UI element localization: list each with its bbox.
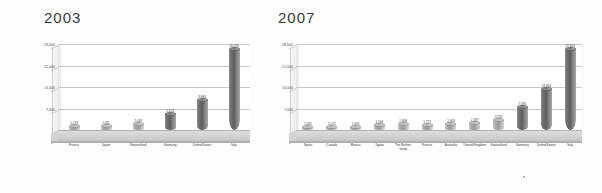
bar-slot[interactable]: 1,081	[296, 44, 320, 130]
bar-slot[interactable]: 26,294	[218, 44, 250, 130]
category-label: Germany	[154, 143, 186, 147]
stray-mark	[523, 176, 525, 178]
chart-panel-2003: 2003 7,00014,00021,00028,000 1,1761,4112…	[0, 0, 268, 193]
bar-cylinder[interactable]	[374, 125, 385, 130]
bar-cylinder[interactable]	[229, 49, 240, 130]
y-axis-tick-label: 7,000	[284, 108, 293, 112]
bar-cylinder[interactable]	[469, 123, 480, 130]
bar-slot[interactable]: 3,292	[487, 44, 511, 130]
bar-cylinder[interactable]	[165, 114, 176, 130]
plot-area-2003: 7,00014,00021,00028,000 1,1761,4112,0495…	[30, 44, 258, 159]
bar-cylinder[interactable]	[445, 124, 456, 130]
bar-group-2003: 1,1761,4112,0495,1259,88426,294	[58, 44, 250, 130]
chart-page: 2003 7,00014,00021,00028,000 1,1761,4112…	[0, 0, 602, 193]
category-label: Spain	[296, 143, 320, 152]
bar-slot[interactable]: 2,187	[463, 44, 487, 130]
chart-title-2003: 2003	[44, 9, 81, 26]
category-label: Canada	[320, 143, 344, 152]
bar-slot[interactable]: 7,481	[510, 44, 534, 130]
bar-cylinder[interactable]	[326, 127, 337, 130]
category-label: The Nether-​lands	[391, 143, 415, 152]
chart-title-2007: 2007	[278, 9, 315, 26]
category-labels-2007: SpainCanadaMexicoJapanThe Nether-​landsF…	[296, 143, 582, 152]
category-label: United States	[534, 143, 558, 152]
bar-slot[interactable]: 9,884	[186, 44, 218, 130]
bar-group-2007: 1,0811,0721,0951,5461,8081,7712,0632,187…	[296, 44, 582, 130]
category-labels-2003: FranceJapanSwitzerlandGermanyUnited Stat…	[58, 143, 250, 147]
bar-slot[interactable]: 1,808	[391, 44, 415, 130]
bar-slot[interactable]: 1,095	[344, 44, 368, 130]
y-axis-tick-label: 21,000	[44, 65, 55, 69]
category-label: Japan	[367, 143, 391, 152]
bar-cylinder[interactable]	[302, 127, 313, 130]
bar-cylinder[interactable]	[350, 127, 361, 130]
category-label: United States	[186, 143, 218, 147]
bar-slot[interactable]: 1,072	[320, 44, 344, 130]
bar-cylinder[interactable]	[398, 124, 409, 130]
category-label: Italy	[218, 143, 250, 147]
y-axis-tick-label: 14,000	[282, 86, 293, 90]
category-label: Mexico	[344, 143, 368, 152]
category-label: France	[58, 143, 90, 147]
bar-cylinder[interactable]	[69, 126, 80, 130]
bar-cylinder[interactable]	[422, 125, 433, 130]
category-label: Switzerland	[487, 143, 511, 152]
bar-cylinder[interactable]	[197, 100, 208, 130]
category-label: United Kingdom	[463, 143, 487, 152]
y-axis-tick-label: 28,000	[44, 43, 55, 47]
category-label: Australia	[439, 143, 463, 152]
bar-slot[interactable]: 27,443	[558, 44, 582, 130]
plot-area-2007: 7,00014,00021,00028,000 1,0811,0721,0951…	[268, 44, 590, 159]
category-label: Switzerland	[122, 143, 154, 147]
y-axis-tick-label: 7,000	[46, 108, 55, 112]
y-axis-tick-label: 14,000	[44, 86, 55, 90]
bar-slot[interactable]: 5,125	[154, 44, 186, 130]
chart-panel-2007: 2007 7,00014,00021,00028,000 1,0811,0721…	[268, 0, 602, 193]
y-axis-tick-label: 21,000	[282, 65, 293, 69]
bar-cylinder[interactable]	[493, 120, 504, 130]
bar-slot[interactable]: 1,546	[367, 44, 391, 130]
bar-slot[interactable]: 1,176	[58, 44, 90, 130]
bar-cylinder[interactable]	[541, 89, 552, 130]
category-label: Italy	[558, 143, 582, 152]
bar-cylinder[interactable]	[517, 107, 528, 130]
bar-slot[interactable]: 2,049	[122, 44, 154, 130]
bar-cylinder[interactable]	[133, 124, 144, 130]
bar-slot[interactable]: 1,771	[415, 44, 439, 130]
y-axis-tick-label: 28,000	[282, 43, 293, 47]
bar-slot[interactable]: 2,063	[439, 44, 463, 130]
bar-cylinder[interactable]	[101, 126, 112, 130]
category-label: Japan	[90, 143, 122, 147]
category-label: Germany	[510, 143, 534, 152]
bar-slot[interactable]: 1,411	[90, 44, 122, 130]
category-label: France	[415, 143, 439, 152]
bar-cylinder[interactable]	[565, 49, 576, 130]
bar-slot[interactable]: 13,364	[534, 44, 558, 130]
